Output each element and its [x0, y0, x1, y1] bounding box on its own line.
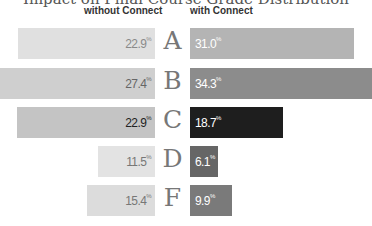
bar-without-connect: 22.9%	[18, 28, 155, 59]
bar-without-connect: 15.4%	[87, 185, 155, 216]
value-label: 31.0%	[195, 37, 221, 51]
value-label: 22.9%	[125, 116, 151, 130]
grade-row-b: 27.4%B34.3%	[0, 68, 372, 99]
grade-letter: A	[155, 26, 190, 55]
chart-title: Impact on Final Course Grade Distributio…	[0, 0, 372, 8]
bar-with-connect: 34.3%	[190, 68, 372, 99]
grade-row-d: 11.5%D6.1%	[0, 146, 372, 177]
grade-letter: D	[155, 144, 190, 173]
bar-with-connect: 6.1%	[190, 146, 218, 177]
bar-with-connect: 31.0%	[190, 28, 354, 59]
value-label: 34.3%	[195, 77, 221, 91]
value-label: 27.4%	[125, 77, 151, 91]
grade-row-a: 22.9%A31.0%	[0, 28, 372, 59]
bar-without-connect: 22.9%	[17, 107, 155, 138]
bar-with-connect: 18.7%	[190, 107, 283, 138]
legend-without-connect: without Connect	[84, 5, 162, 16]
legend-with-connect: with Connect	[190, 5, 253, 16]
value-label: 18.7%	[195, 116, 221, 130]
value-label: 9.9%	[195, 194, 215, 208]
value-label: 6.1%	[195, 155, 215, 169]
value-label: 11.5%	[126, 155, 151, 169]
bar-without-connect: 27.4%	[0, 68, 155, 99]
bar-without-connect: 11.5%	[98, 146, 155, 177]
grade-letter: C	[155, 105, 190, 134]
grade-letter: B	[155, 66, 190, 95]
grade-letter: F	[155, 183, 190, 212]
grade-row-f: 15.4%F9.9%	[0, 185, 372, 216]
bar-with-connect: 9.9%	[190, 185, 232, 216]
value-label: 22.9%	[125, 37, 151, 51]
value-label: 15.4%	[125, 194, 151, 208]
grade-row-c: 22.9%C18.7%	[0, 107, 372, 138]
